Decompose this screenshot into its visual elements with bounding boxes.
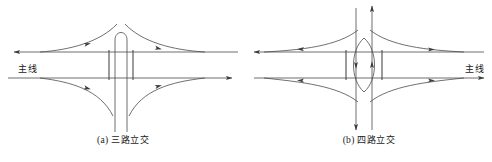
ramp-arrow-upper-left-b: [297, 47, 304, 51]
figure-four-way-interchange: 主线 (b) 四路立交: [246, 0, 492, 162]
figure-three-way-interchange: 主线 (a) 三路立交: [0, 0, 246, 162]
ramp-upper-left-b: [264, 30, 358, 52]
ramp-lower-left-a: [40, 78, 113, 116]
ramp-upper-left-arrow-a: [40, 42, 88, 52]
ramp-lower-left-b: [264, 78, 358, 102]
secondary-road-nose-a: [115, 33, 127, 41]
ramp-arrow-lower-right-a: [155, 83, 163, 89]
ramp-upper-left-a: [40, 24, 117, 52]
figure-caption-text-b: 四路立交: [357, 135, 395, 145]
figure-caption-b: (b) 四路立交: [246, 133, 492, 146]
figure-caption-a: (a) 三路立交: [0, 133, 246, 146]
mainline-label-b: 主线: [465, 62, 484, 75]
interchange-figure-row: 主线 (a) 三路立交: [0, 0, 492, 162]
mainline-label-a: 主线: [18, 62, 37, 75]
ramp-upper-right-a: [125, 24, 205, 52]
figure-caption-index-a: (a): [97, 135, 108, 145]
ramp-lower-right-a: [129, 78, 205, 116]
ramp-upper-right-b: [370, 30, 464, 52]
ramp-lower-right-b: [370, 78, 464, 102]
four-way-interchange-drawing: [246, 0, 492, 138]
ramp-arrow-upper-right-a: [155, 46, 163, 52]
figure-caption-text-a: 三路立交: [111, 135, 149, 145]
figure-caption-index-b: (b): [343, 135, 355, 145]
